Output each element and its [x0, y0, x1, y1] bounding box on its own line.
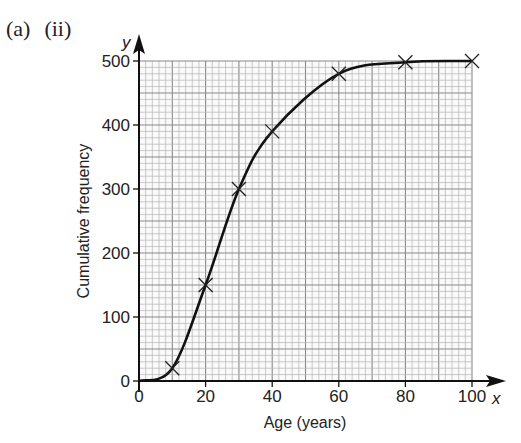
y-tick-label: 200 [102, 244, 130, 263]
y-tick-label: 400 [102, 116, 130, 135]
x-tick-label: 40 [263, 387, 282, 406]
cumulative-frequency-chart: 0204060801000100200300400500 Age (years)… [0, 0, 521, 443]
y-tick-label: 500 [102, 52, 130, 71]
y-axis-variable: y [121, 33, 132, 52]
x-axis-variable: x [491, 389, 501, 408]
y-axis-title: Cumulative frequency [75, 144, 92, 299]
x-tick-label: 20 [196, 387, 215, 406]
x-tick-label: 0 [134, 387, 143, 406]
x-tick-label: 100 [458, 387, 486, 406]
y-tick-label: 0 [121, 372, 130, 391]
y-tick-label: 100 [102, 308, 130, 327]
x-axis-title: Age (years) [264, 414, 347, 431]
x-tick-label: 60 [329, 387, 348, 406]
x-tick-label: 80 [396, 387, 415, 406]
y-tick-label: 300 [102, 180, 130, 199]
